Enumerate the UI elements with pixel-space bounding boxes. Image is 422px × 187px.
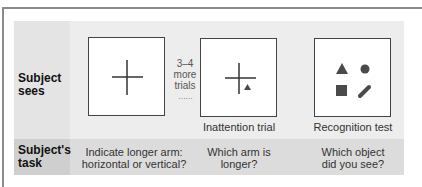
caption-inattention-trial: Inattention trial: [196, 121, 282, 133]
circle-icon: [361, 65, 370, 74]
more-trials-note: 3–4 more trials ……: [167, 58, 203, 102]
cross-with-triangle-icon: [201, 39, 278, 118]
stimulus-box-recognition: [314, 38, 391, 117]
cross-icon: [89, 38, 166, 117]
more-trials-line: more: [167, 69, 203, 80]
stimulus-box-inattention: [200, 38, 277, 117]
shapes-array-icon: [315, 39, 392, 118]
task-line: longer?: [198, 158, 280, 170]
more-trials-line: 3–4: [167, 58, 203, 69]
task-line: Which object: [310, 146, 396, 158]
triangle-icon: [336, 63, 348, 74]
task-text-3: Which object did you see?: [310, 146, 396, 170]
caption-recognition-test: Recognition test: [306, 121, 400, 133]
more-trials-line: trials: [167, 80, 203, 91]
task-line: did you see?: [310, 158, 396, 170]
triangle-icon: [244, 84, 251, 90]
task-line: horizontal or vertical?: [75, 158, 193, 170]
line-segment-icon: [360, 87, 369, 96]
row-label-line: sees: [18, 85, 61, 98]
row-label-subject-task: Subject's task: [18, 144, 71, 170]
stimulus-box-cross: [88, 37, 165, 116]
task-line: Which arm is: [198, 146, 280, 158]
row-label-line: task: [18, 157, 71, 170]
row-label-subject-sees: Subject sees: [18, 72, 61, 98]
task-text-1: Indicate longer arm: horizontal or verti…: [75, 146, 193, 170]
task-line: Indicate longer arm:: [75, 146, 193, 158]
square-icon: [336, 85, 347, 96]
ellipsis: ……: [167, 91, 203, 102]
task-text-2: Which arm is longer?: [198, 146, 280, 170]
